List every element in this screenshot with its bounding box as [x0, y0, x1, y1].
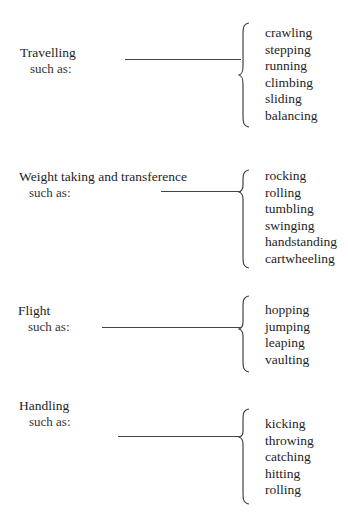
category-title: Flight — [18, 303, 50, 318]
category-travelling: Travelling such as: — [20, 45, 76, 77]
list-item: throwing — [265, 433, 314, 450]
category-title: Handling — [19, 398, 69, 413]
list-item: vaulting — [265, 352, 310, 369]
list-item: kicking — [265, 416, 314, 433]
list-item: rocking — [265, 168, 337, 185]
brace-icon — [238, 408, 250, 505]
connector-line — [125, 59, 241, 60]
list-item: hopping — [265, 302, 310, 319]
list-item: hitting — [265, 466, 314, 483]
list-item: leaping — [265, 335, 310, 352]
category-subtitle: such as: — [19, 414, 71, 430]
brace-icon — [238, 22, 250, 128]
category-flight: Flight such as: — [18, 303, 70, 335]
list-item: cartwheeling — [265, 251, 337, 268]
example-list-handling: kicking throwing catching hitting rollin… — [265, 416, 314, 499]
list-item: rolling — [265, 185, 337, 202]
list-item: catching — [265, 449, 314, 466]
category-handling: Handling such as: — [19, 398, 71, 430]
category-title: Weight taking and transference — [19, 169, 187, 184]
list-item: stepping — [265, 42, 317, 59]
category-subtitle: such as: — [19, 185, 187, 201]
list-item: handstanding — [265, 234, 337, 251]
list-item: rolling — [265, 482, 314, 499]
category-weight-taking: Weight taking and transference such as: — [19, 169, 187, 201]
connector-line — [118, 436, 241, 437]
list-item: sliding — [265, 91, 317, 108]
example-list-travelling: crawling stepping running climbing slidi… — [265, 25, 317, 125]
connector-line — [161, 191, 241, 192]
category-title: Travelling — [20, 45, 76, 60]
list-item: jumping — [265, 319, 310, 336]
example-list-weight-taking: rocking rolling tumbling swinging handst… — [265, 168, 337, 268]
connector-line — [102, 327, 241, 328]
list-item: balancing — [265, 108, 317, 125]
example-list-flight: hopping jumping leaping vaulting — [265, 302, 310, 368]
list-item: climbing — [265, 75, 317, 92]
list-item: swinging — [265, 218, 337, 235]
list-item: running — [265, 58, 317, 75]
list-item: crawling — [265, 25, 317, 42]
list-item: tumbling — [265, 201, 337, 218]
category-subtitle: such as: — [18, 319, 70, 335]
category-subtitle: such as: — [20, 61, 76, 77]
brace-icon — [238, 169, 250, 269]
brace-icon — [238, 295, 250, 373]
